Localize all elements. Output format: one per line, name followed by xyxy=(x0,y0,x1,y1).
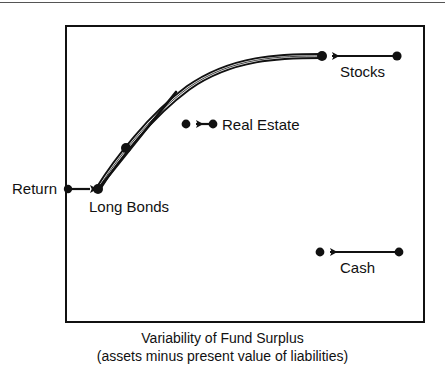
x-axis-caption-line2: (assets minus present value of liabiliti… xyxy=(0,348,445,366)
efficient-frontier-figure: Return Stocks Real Estate Long Bonds Cas… xyxy=(0,0,445,378)
top-divider-rule xyxy=(0,2,445,3)
stocks-label: Stocks xyxy=(340,64,385,81)
long-bonds-label: Long Bonds xyxy=(89,199,169,216)
x-axis-caption: Variability of Fund Surplus (assets minu… xyxy=(0,330,445,365)
real-estate-label: Real Estate xyxy=(222,117,300,134)
cash-label: Cash xyxy=(340,260,375,277)
y-axis-label: Return xyxy=(12,181,57,198)
x-axis-caption-line1: Variability of Fund Surplus xyxy=(141,330,303,346)
